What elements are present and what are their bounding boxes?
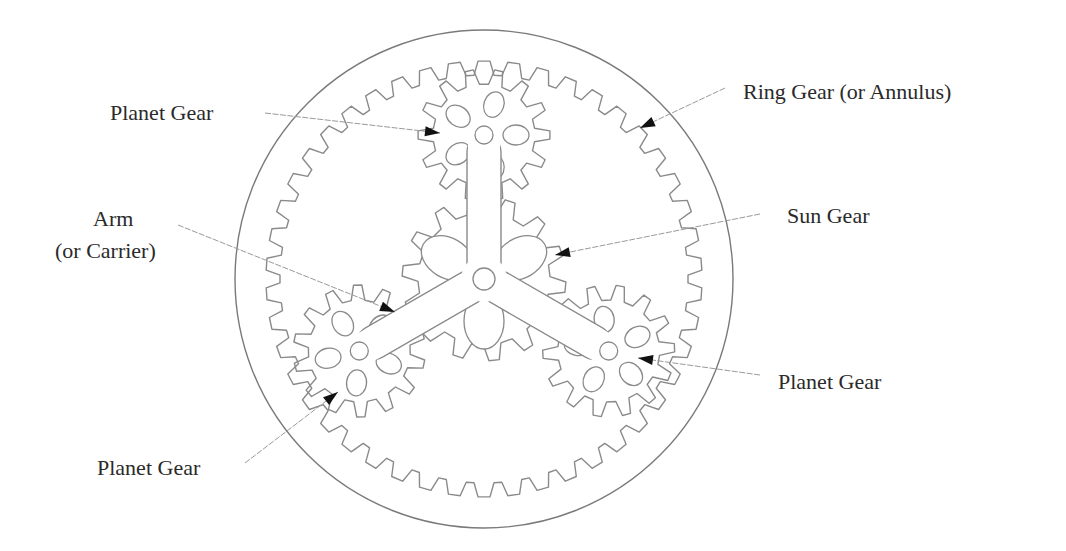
planet-right-leader <box>638 355 760 375</box>
label-ring-gear: Ring Gear (or Annulus) <box>743 81 951 103</box>
label-sun-gear: Sun Gear <box>787 205 869 227</box>
planet-top-leader <box>265 113 440 136</box>
label-planet-gear-top: Planet Gear <box>110 102 213 124</box>
arm-leader <box>178 225 395 312</box>
ring-leader <box>640 88 725 128</box>
label-arm: Arm <box>93 208 133 230</box>
arrowhead-icon <box>555 247 571 257</box>
arrowhead-icon <box>640 117 656 128</box>
label-arm-carrier: (or Carrier) <box>55 240 156 262</box>
label-planet-gear-bottom-left: Planet Gear <box>97 457 200 479</box>
label-planet-gear-right: Planet Gear <box>778 371 881 393</box>
arrowhead-icon <box>638 355 654 365</box>
